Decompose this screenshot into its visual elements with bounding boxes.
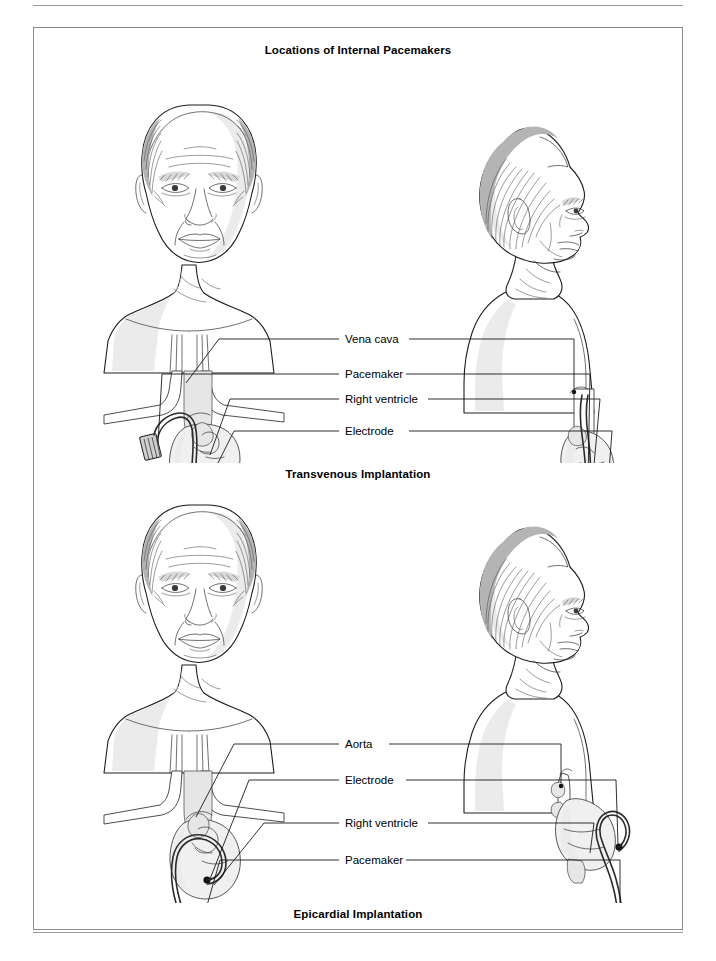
caption-epicardial: Epicardial Implantation <box>34 908 682 920</box>
figure-title: Locations of Internal Pacemakers <box>34 44 682 56</box>
lateral-figure-lower <box>464 527 594 813</box>
label-pacemaker-lower: Pacemaker <box>342 854 406 867</box>
label-right-ventricle-lower: Right ventricle <box>342 817 421 830</box>
epicardial-implantation-panel: Aorta Electrode Right ventricle Pacemake… <box>34 483 684 903</box>
page-bottom-rule <box>33 932 683 933</box>
label-electrode-upper: Electrode <box>342 425 397 438</box>
label-pacemaker-upper: Pacemaker <box>342 368 406 381</box>
caption-transvenous: Transvenous Implantation <box>34 468 682 480</box>
lateral-figure-upper <box>464 127 594 413</box>
label-vena-cava-upper: Vena cava <box>342 333 402 346</box>
page-top-rule <box>33 5 683 6</box>
transvenous-implantation-panel: Vena cava Pacemaker Right ventricle Elec… <box>34 83 684 463</box>
aorta-marker <box>559 784 563 788</box>
anterior-figure-upper <box>104 105 274 373</box>
anterior-thorax-lower <box>104 771 284 903</box>
epicardial-illustration <box>34 483 684 903</box>
label-right-ventricle-upper: Right ventricle <box>342 393 421 406</box>
label-electrode-lower: Electrode <box>342 774 397 787</box>
vena-cava-marker <box>572 390 576 394</box>
figure-frame: Locations of Internal Pacemakers <box>33 27 683 930</box>
anterior-figure-lower <box>104 505 274 773</box>
anterior-thorax-upper <box>104 371 284 463</box>
transvenous-illustration <box>34 83 684 463</box>
label-aorta-lower: Aorta <box>342 738 376 751</box>
